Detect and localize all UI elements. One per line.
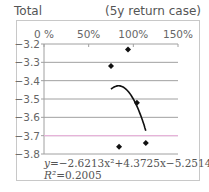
y-tick-label: −3.6 bbox=[15, 111, 41, 123]
data-point-marker bbox=[143, 140, 149, 146]
data-point-marker bbox=[125, 47, 131, 53]
y-tick-label: −3.4 bbox=[15, 75, 41, 87]
r-squared: R²=0.2005 bbox=[43, 169, 102, 181]
gridlines bbox=[44, 62, 178, 154]
data-point-marker bbox=[116, 144, 122, 150]
x-tick-label: 150% bbox=[163, 28, 193, 40]
y-tick-label: −3.3 bbox=[15, 56, 41, 68]
trend-equation: y=−2.6213x²+4.3725x−5.2514 bbox=[43, 157, 209, 169]
data-point-marker bbox=[108, 63, 114, 69]
y-tick-label: −3.8 bbox=[15, 148, 41, 160]
trend-curve bbox=[111, 86, 146, 131]
y-tick-label: −3.2 bbox=[15, 38, 41, 50]
x-tick-labels: 0 %50%100%150% bbox=[34, 28, 193, 40]
x-tick-label: 50% bbox=[77, 28, 100, 40]
y-tick-label: −3.7 bbox=[15, 130, 41, 142]
y-tick-label: −3.5 bbox=[15, 93, 41, 105]
y-tick-labels: −3.2−3.3−3.4−3.5−3.6−3.7−3.8 bbox=[15, 38, 41, 160]
trendline bbox=[111, 86, 146, 131]
x-tick-label: 100% bbox=[118, 28, 148, 40]
scatter-plot: 0 %50%100%150% −3.2−3.3−3.4−3.5−3.6−3.7−… bbox=[0, 0, 209, 192]
